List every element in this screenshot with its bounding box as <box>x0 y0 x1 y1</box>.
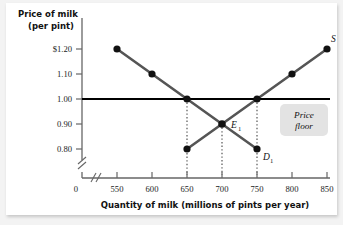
supply-demand-chart: $1.20 1.10 1.00 0.90 0.80 0 550 600 650 … <box>0 0 343 225</box>
x-tick-label-850: 850 <box>321 184 334 194</box>
x-tick-label-750: 750 <box>251 184 264 194</box>
demand-point-550 <box>113 45 120 52</box>
demand-curve-label: D <box>262 152 270 162</box>
y-axis-title-line1: Price of milk <box>18 9 78 19</box>
supply-point-650 <box>183 145 190 152</box>
x-tick-label-650: 650 <box>181 184 194 194</box>
demand-curve-label-subscript: 1 <box>270 157 273 164</box>
x-tick-label-600: 600 <box>146 184 159 194</box>
y-tick-label-4: 0.80 <box>57 144 72 154</box>
equilibrium-label-subscript: 1 <box>238 125 241 132</box>
demand-point-750 <box>253 145 260 152</box>
y-tick-label-1: 1.10 <box>57 69 72 79</box>
x-axis-title: Quantity of milk (millions of pints per … <box>101 200 310 210</box>
demand-point-600 <box>148 70 155 77</box>
y-axis-title-line2: (per pint) <box>28 21 74 31</box>
price-floor-label-line2: floor <box>295 121 313 131</box>
x-tick-label-700: 700 <box>216 184 229 194</box>
y-tick-label-2: 1.00 <box>57 94 72 104</box>
x-tick-label-550: 550 <box>111 184 124 194</box>
supply-curve-label: S <box>331 34 336 44</box>
x-origin-label: 0 <box>74 184 78 194</box>
supply-point-850 <box>323 45 330 52</box>
y-tick-label-0: $1.20 <box>53 44 72 54</box>
price-floor-callout-box <box>280 104 328 136</box>
figure-container: $1.20 1.10 1.00 0.90 0.80 0 550 600 650 … <box>0 0 343 225</box>
supply-point-800 <box>288 70 295 77</box>
droplines <box>187 99 257 175</box>
equilibrium-label: E <box>230 120 237 130</box>
price-floor-label-line1: Price <box>293 110 314 120</box>
x-tick-label-800: 800 <box>286 184 299 194</box>
equilibrium-point-marker <box>218 120 226 128</box>
supply-point-750 <box>253 95 260 102</box>
demand-point-650 <box>183 95 190 102</box>
y-tick-label-3: 0.90 <box>57 119 72 129</box>
y-axis-ticks <box>76 49 82 149</box>
